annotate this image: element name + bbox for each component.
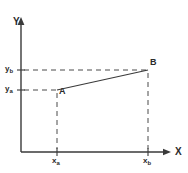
y-tick-label-a-subscript: a (9, 88, 12, 94)
y-axis-label: Y (13, 17, 20, 27)
x-tick-label-b: xb (143, 157, 151, 165)
coordinate-diagram: Y X A B yb ya xa xb (0, 0, 188, 173)
x-axis-arrowhead (163, 149, 171, 156)
segment-ab (57, 70, 148, 90)
point-label-a: A (59, 87, 66, 96)
x-axis-label: X (175, 147, 182, 157)
x-tick-label-a-subscript: a (56, 160, 59, 166)
point-label-b: B (150, 58, 157, 67)
x-tick-label-b-subscript: b (147, 160, 151, 166)
y-tick-label-b-subscript: b (9, 68, 13, 74)
y-tick-label-a: ya (5, 85, 13, 93)
diagram-canvas (0, 0, 188, 173)
y-tick-label-b: yb (5, 65, 13, 73)
x-tick-label-a: xa (52, 157, 60, 165)
